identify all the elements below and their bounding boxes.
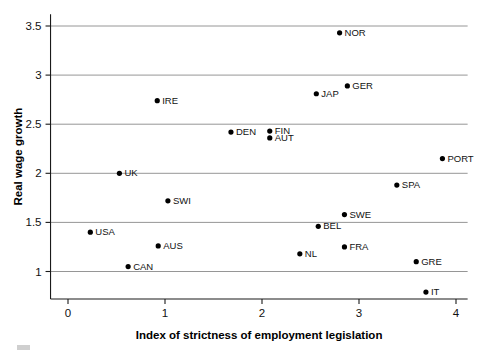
point-label-can: CAN	[133, 261, 153, 272]
point-marker-spa	[394, 182, 399, 187]
point-label-nor: NOR	[345, 27, 366, 38]
data-point-nor: NOR	[337, 27, 366, 38]
data-point-den: DEN	[228, 126, 256, 137]
point-marker-port	[440, 156, 445, 161]
point-label-jap: JAP	[321, 88, 338, 99]
data-point-fra: FRA	[342, 241, 369, 252]
point-marker-den	[228, 129, 233, 134]
point-label-fra: FRA	[349, 241, 369, 252]
point-label-ger: GER	[352, 80, 373, 91]
x-axis-title: Index of strictness of employment legisl…	[136, 329, 383, 341]
point-label-spa: SPA	[402, 179, 421, 190]
point-label-gre: GRE	[421, 256, 442, 267]
x-tick-label-3: 3	[356, 307, 362, 319]
data-point-ire: IRE	[155, 95, 178, 106]
point-label-usa: USA	[95, 226, 115, 237]
point-marker-usa	[88, 230, 93, 235]
point-marker-swe	[342, 212, 347, 217]
data-point-ger: GER	[345, 80, 373, 91]
point-label-port: PORT	[447, 153, 473, 164]
point-label-bel: BEL	[323, 220, 341, 231]
data-point-gre: GRE	[414, 256, 442, 267]
point-marker-can	[126, 264, 131, 269]
x-tick-label-0: 0	[65, 307, 71, 319]
data-point-aus: AUS	[156, 240, 183, 251]
point-marker-uk	[117, 171, 122, 176]
data-point-usa: USA	[88, 226, 116, 237]
y-tick-label-3: 3	[35, 69, 41, 81]
data-point-swe: SWE	[342, 209, 371, 220]
point-marker-gre	[414, 259, 419, 264]
point-marker-bel	[316, 224, 321, 229]
point-label-swi: SWI	[173, 195, 191, 206]
y-tick-label-2.5: 2.5	[26, 118, 42, 130]
point-label-aut: AUT	[275, 132, 294, 143]
point-marker-aus	[156, 243, 161, 248]
point-marker-nor	[337, 30, 342, 35]
point-marker-ire	[155, 98, 160, 103]
data-point-port: PORT	[440, 153, 474, 164]
point-label-uk: UK	[124, 167, 138, 178]
point-label-den: DEN	[236, 126, 256, 137]
plot-canvas: 11.522.533.501234NORGERJAPIREDENFINAUTPO…	[0, 0, 487, 355]
data-point-jap: JAP	[314, 88, 339, 99]
point-label-aus: AUS	[163, 240, 183, 251]
x-tick-label-4: 4	[453, 307, 460, 319]
data-point-spa: SPA	[394, 179, 421, 190]
y-tick-label-1.5: 1.5	[26, 216, 42, 228]
corner-artifact-mark	[17, 345, 30, 350]
point-label-nl: NL	[305, 248, 317, 259]
y-tick-label-1: 1	[35, 266, 41, 278]
point-label-ire: IRE	[162, 95, 178, 106]
point-marker-fin	[267, 128, 272, 133]
point-marker-fra	[342, 244, 347, 249]
point-marker-swi	[165, 198, 170, 203]
x-tick-label-2: 2	[259, 307, 265, 319]
data-point-it: IT	[423, 286, 439, 297]
y-axis-title: Real wage growth	[12, 108, 24, 206]
point-marker-jap	[314, 91, 319, 96]
point-marker-nl	[297, 251, 302, 256]
point-marker-ger	[345, 83, 350, 88]
data-point-aut: AUT	[267, 132, 294, 143]
point-label-it: IT	[431, 286, 440, 297]
scatter-plot-figure: 11.522.533.501234NORGERJAPIREDENFINAUTPO…	[0, 0, 487, 355]
data-point-can: CAN	[126, 261, 154, 272]
point-label-swe: SWE	[349, 209, 371, 220]
data-point-uk: UK	[117, 167, 138, 178]
x-tick-label-1: 1	[162, 307, 168, 319]
data-point-swi: SWI	[165, 195, 191, 206]
point-marker-aut	[267, 135, 272, 140]
point-marker-it	[423, 290, 428, 295]
y-tick-label-2: 2	[35, 167, 41, 179]
data-point-nl: NL	[297, 248, 317, 259]
y-tick-label-3.5: 3.5	[26, 20, 42, 32]
